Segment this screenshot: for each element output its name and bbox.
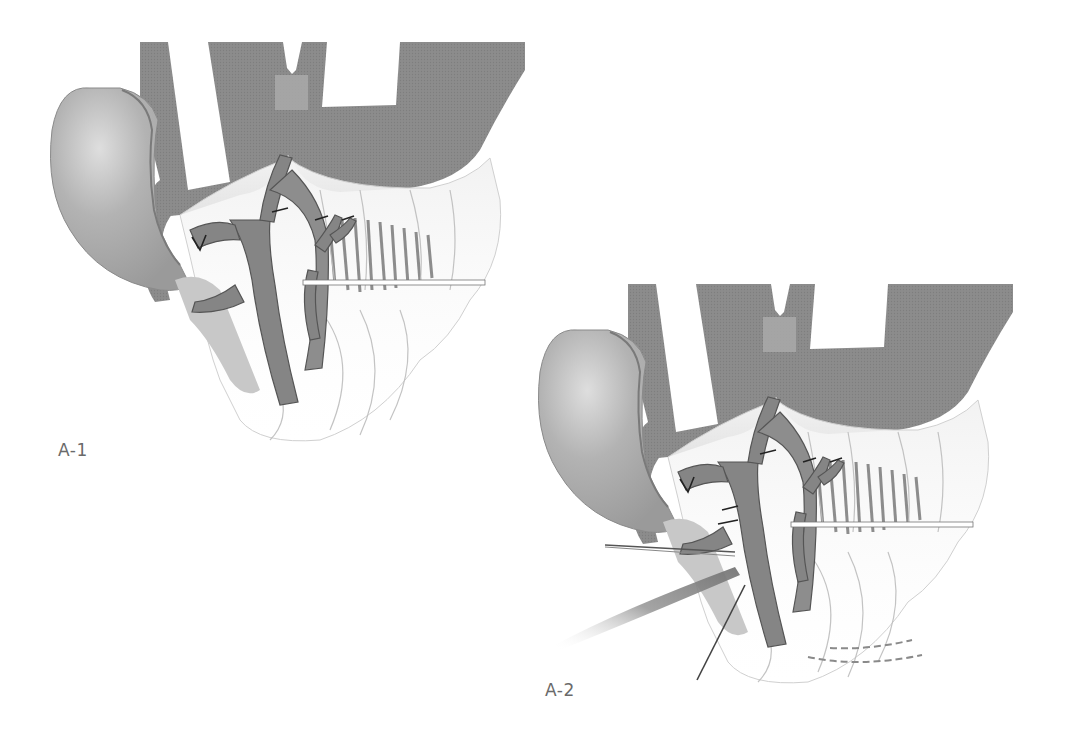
figure-panel-a2: A-2 bbox=[0, 0, 1090, 730]
surgical-illustration-a2 bbox=[0, 0, 1090, 730]
panel-label-a2: A-2 bbox=[545, 680, 575, 700]
